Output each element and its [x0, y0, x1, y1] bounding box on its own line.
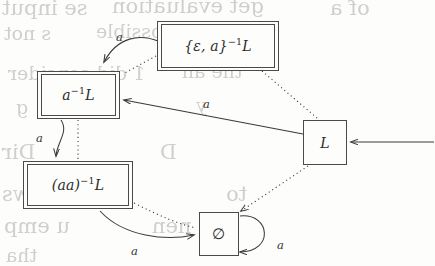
edge-aainv-to-empty-a: [100, 211, 194, 237]
edge-label-L-to-ainv: a: [203, 97, 210, 111]
edge-label-empty-selfloop: a: [277, 238, 284, 252]
link-epsa-to-L: [262, 71, 317, 118]
state-L[interactable]: L: [303, 120, 347, 165]
state-aa-inv-L[interactable]: (aa)−1L: [23, 161, 133, 209]
state-inner-border: a−1L: [41, 74, 116, 116]
edge-label-ainv-to-aainv: a: [36, 131, 43, 145]
edge-L-to-ainv-a: [124, 100, 303, 134]
state-label-empty-set: ∅: [212, 227, 225, 242]
state-label-L: L: [320, 136, 330, 150]
diagram-canvas: se inputget evaluationof as notple as po…: [0, 0, 435, 266]
link-aainv-to-empty: [134, 203, 196, 228]
edge-ainv-to-aainv-a: [56, 120, 64, 156]
state-inner-border: (aa)−1L: [27, 164, 129, 206]
edge-label-aainv-to-empty: a: [131, 244, 138, 258]
edge-label-epsa-to-ainv: a: [116, 30, 123, 44]
link-epsa-to-ainv: [123, 56, 156, 74]
state-a-inv-L[interactable]: a−1L: [37, 71, 120, 119]
state-label-aa-inv-L: (aa)−1L: [52, 178, 104, 192]
state-label-eps-a-inv-L: {ε, a}−1L: [184, 39, 252, 53]
state-label-a-inv-L: a−1L: [62, 88, 94, 102]
state-empty-set[interactable]: ∅: [199, 212, 239, 256]
link-L-to-empty: [241, 166, 308, 211]
edge-epsa-to-ainv-a: [104, 38, 158, 62]
state-eps-a-inv-L[interactable]: {ε, a}−1L: [157, 21, 279, 71]
state-inner-border: {ε, a}−1L: [161, 24, 275, 68]
edge-empty-selfloop-a: [240, 216, 264, 252]
